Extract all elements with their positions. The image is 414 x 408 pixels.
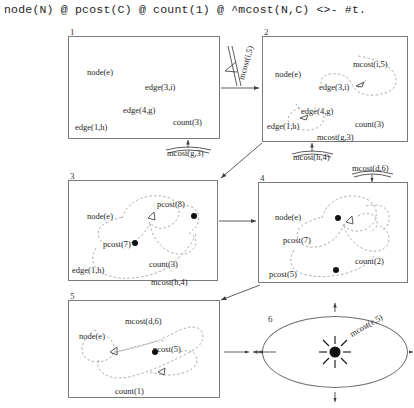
atom-edge-4-g: edge(4,g)	[301, 106, 333, 116]
panel-5-number: 5	[70, 291, 75, 301]
atom-edge-1-h: edge(1,h)	[75, 122, 107, 132]
atom-edge-3-i: edge(3,i)	[319, 82, 349, 92]
panel-3-number: 3	[70, 171, 75, 181]
atom-node-e: node(e)	[275, 69, 301, 79]
label-mcost-g3: mcost(g,3)	[167, 148, 204, 158]
panel-4[interactable]: node(e) pcost(7) count(2) pcost(5)	[258, 182, 408, 283]
atom-pcost-7: pcost(7)	[103, 239, 131, 249]
atom-pcost-7: pcost(7)	[283, 235, 311, 245]
diagram-canvas: node(N) @ pcost(C) @ count(1) @ ^mcost(N…	[0, 0, 414, 408]
panel-1-number: 1	[70, 27, 75, 37]
label-mcost-d6: mcost(d,6)	[352, 163, 389, 173]
atom-mcost-d-6: mcost(d,6)	[125, 316, 162, 326]
atom-count-3: count(3)	[355, 119, 384, 129]
panel-6-number: 6	[268, 314, 273, 324]
panel-2-number: 2	[264, 27, 269, 37]
atom-count-3: count(3)	[173, 117, 202, 127]
atom-pcost-8: pcost(8)	[157, 199, 185, 209]
panel-2[interactable]: node(e) mcost(i,5) edge(3,i) edge(4,g) e…	[262, 36, 408, 142]
atom-edge-1-h: edge(1,h)	[72, 265, 104, 275]
atom-node-e: node(e)	[87, 211, 113, 221]
atom-mcost-h-4: mcost(h,4)	[151, 277, 188, 287]
label-mcost-h4: mcost(h,4)	[293, 152, 330, 162]
atom-count-3: count(3)	[149, 259, 178, 269]
atom-edge-3-i: edge(3,i)	[145, 82, 175, 92]
atom-mcost-g-3: mcost(g,3)	[317, 132, 354, 142]
atom-node-e: node(e)	[79, 331, 105, 341]
atom-pcost-5: pcost(5)	[269, 269, 297, 279]
atom-edge-4-g: edge(4,g)	[123, 105, 155, 115]
atom-node-e: node(e)	[275, 212, 301, 222]
panel-5[interactable]: mcost(d,6) node(e) pcost(5) count(1)	[68, 300, 220, 398]
atom-mcost-i-5: mcost(i,5)	[353, 59, 388, 69]
panel-4-number: 4	[260, 173, 265, 183]
header-formula: node(N) @ pcost(C) @ count(1) @ ^mcost(N…	[4, 3, 366, 16]
label-mcost-i5: mcost(i,5)	[236, 45, 255, 81]
atom-node-e: node(e)	[87, 67, 113, 77]
atom-count-1: count(1)	[115, 386, 144, 396]
panel-6-ellipse[interactable]	[262, 316, 408, 388]
panel-1[interactable]: node(e) edge(3,i) edge(4,g) edge(1,h) co…	[68, 36, 220, 139]
atom-edge-1-h: edge(1,h)	[267, 121, 299, 131]
atom-count-2: count(2)	[355, 256, 384, 266]
atom-pcost-5: pcost(5)	[153, 344, 181, 354]
panel-3[interactable]: node(e) pcost(8) pcost(7) edge(1,h) coun…	[68, 180, 218, 281]
